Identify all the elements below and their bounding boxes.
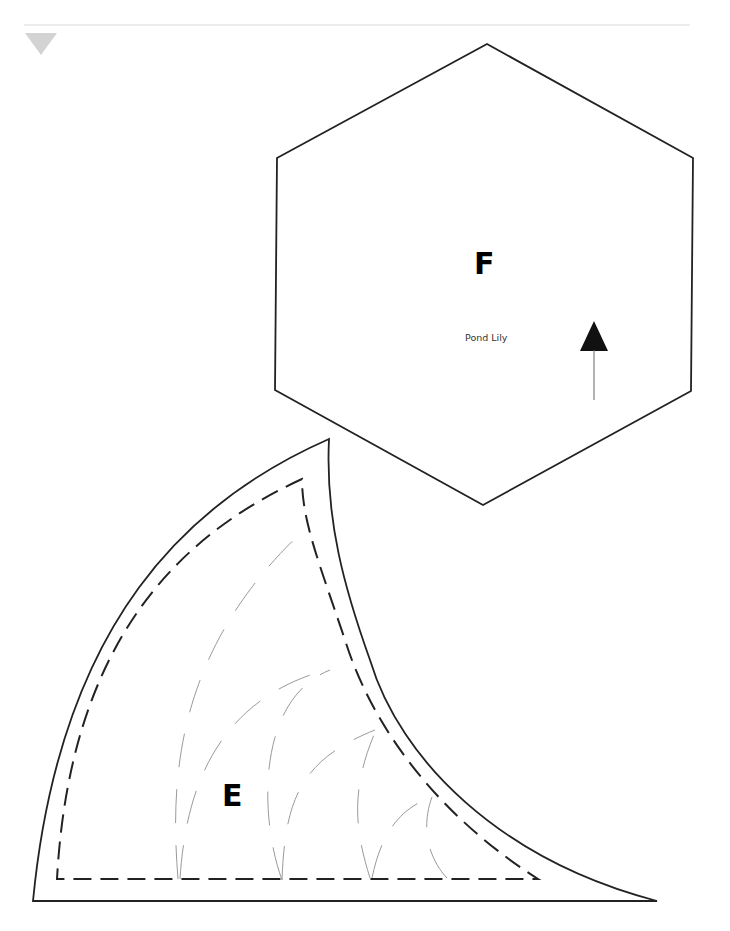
wedge-seam-line bbox=[57, 479, 538, 879]
pattern-canvas bbox=[0, 0, 730, 931]
piece-name-label: Pond Lily bbox=[465, 333, 507, 343]
grain-arrow-icon bbox=[580, 321, 608, 400]
wedge-piece-outline bbox=[33, 439, 657, 901]
piece-letter-f: F bbox=[474, 249, 495, 279]
piece-letter-e: E bbox=[222, 781, 243, 811]
quilting-lines bbox=[176, 530, 447, 880]
